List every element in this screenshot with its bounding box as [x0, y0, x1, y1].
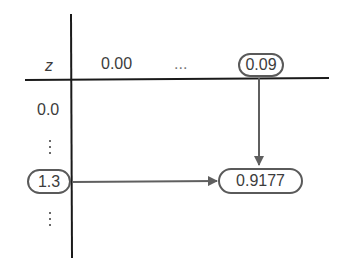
column-header-ellipsis: ... [174, 56, 187, 72]
vertical-axis-line [71, 14, 72, 258]
z-header-label: z [45, 58, 53, 74]
diagram-lines [0, 0, 341, 271]
highlighted-row-1-3: 1.3 [27, 169, 71, 194]
column-0-09-label: 0.09 [245, 56, 276, 74]
vertical-ellipsis-lower [49, 212, 52, 230]
result-cell-0-9177: 0.9177 [218, 168, 303, 194]
z-table-diagram: z 0.00 ... 0.09 0.0 1.3 0.9177 [0, 0, 341, 271]
row-1-3-label: 1.3 [38, 173, 60, 191]
result-value-label: 0.9177 [236, 172, 285, 190]
row-label-0-0: 0.0 [37, 102, 59, 118]
highlighted-column-0-09: 0.09 [238, 53, 284, 77]
vertical-ellipsis-upper [49, 140, 52, 158]
column-header-0-00: 0.00 [101, 56, 132, 72]
arrow-right-icon [72, 181, 217, 182]
